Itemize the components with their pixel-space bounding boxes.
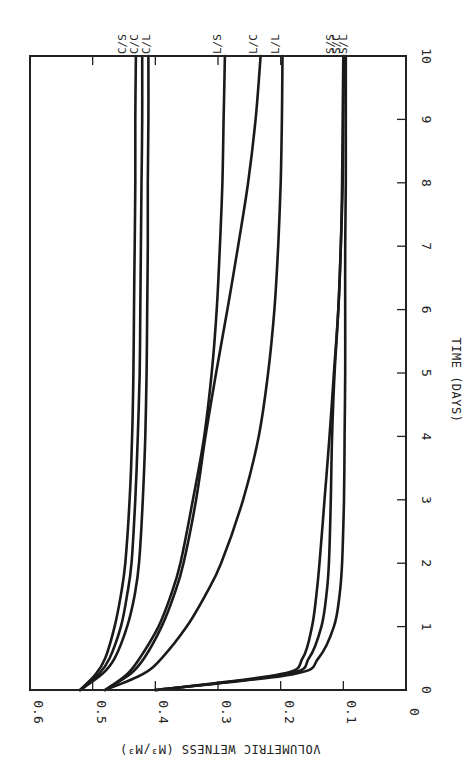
curve-label: L/S: [211, 34, 224, 54]
y-tick-label: 0.5: [94, 700, 109, 723]
wetness-axis-ticks: 00.10.20.30.40.50.6: [31, 56, 422, 724]
curve-s-s: [155, 56, 343, 690]
x-tick-label: 10: [419, 48, 434, 64]
x-tick-label: 8: [419, 179, 434, 187]
curve-l-c: [105, 56, 260, 690]
x-tick-label: 3: [419, 496, 434, 504]
y-tick-label: 0.4: [156, 700, 171, 724]
x-tick-label: 7: [419, 242, 434, 250]
curve-label: C/L: [140, 34, 153, 54]
curve-label: S/L: [337, 34, 350, 54]
y-tick-label: 0.1: [344, 700, 359, 723]
x-tick-label: 4: [419, 432, 434, 440]
y-tick-label: 0.3: [219, 700, 234, 723]
curve-series: [80, 56, 346, 690]
curve-label: C/S: [116, 34, 129, 54]
curve-l-l: [105, 56, 282, 690]
x-tick-label: 6: [419, 306, 434, 314]
wetness-chart: 00.10.20.30.40.50.6 012345678910 C/SC/CC…: [0, 0, 476, 770]
y-axis-label: VOLUMETRIC WETNESS (M³/M³): [120, 742, 321, 756]
curve-label: L/C: [247, 34, 260, 54]
plot-frame: [30, 56, 406, 690]
curve-c-l: [80, 56, 148, 690]
curve-labels: C/SC/CC/LL/SL/CL/LS/SS/CS/L: [116, 34, 350, 54]
y-tick-label: 0: [407, 708, 422, 716]
curve-label: C/C: [128, 34, 141, 54]
x-tick-label: 2: [419, 559, 434, 567]
time-axis-ticks: 012345678910: [397, 48, 434, 694]
x-tick-label: 1: [419, 623, 434, 631]
curve-label: L/L: [269, 34, 282, 54]
y-tick-label: 0.2: [282, 700, 297, 723]
x-tick-label: 5: [419, 369, 434, 377]
x-tick-label: 0: [419, 686, 434, 694]
x-axis-label: TIME (DAYS): [449, 338, 463, 423]
x-tick-label: 9: [419, 115, 434, 123]
y-tick-label: 0.6: [31, 700, 46, 723]
